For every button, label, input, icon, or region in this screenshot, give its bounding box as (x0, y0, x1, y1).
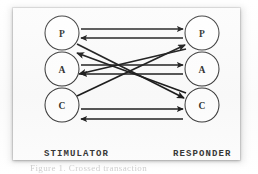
node-right-parent[interactable]: P (185, 16, 219, 50)
ego-state-diagram: P A C P A (13, 8, 240, 160)
node-left-child[interactable]: C (45, 88, 79, 122)
stimulator-node-column: P A C (45, 16, 79, 122)
figure-card: P A C P A (13, 8, 240, 160)
node-right-child-label: C (198, 101, 205, 111)
node-left-adult-label: A (58, 65, 65, 75)
diagonal-arrow-group (77, 44, 186, 98)
figure-container: P A C P A (0, 0, 258, 174)
figure-caption-text: Figure 1. Crossed transaction (14, 163, 240, 173)
node-right-child[interactable]: C (185, 88, 219, 122)
node-left-child-label: C (58, 101, 65, 111)
node-right-adult[interactable]: A (185, 52, 219, 86)
stimulator-column-label: STIMULATOR (44, 149, 109, 159)
node-left-parent[interactable]: P (45, 16, 79, 50)
figure-caption: Figure 1. Crossed transaction (14, 163, 240, 174)
node-right-adult-label: A (198, 65, 205, 75)
responder-node-column: P A C (185, 16, 219, 122)
node-right-parent-label: P (199, 29, 205, 39)
responder-column-label: RESPONDER (173, 149, 232, 159)
node-left-parent-label: P (59, 29, 65, 39)
node-left-adult[interactable]: A (45, 52, 79, 86)
arrow-right-child-to-left-adult (77, 53, 186, 93)
horizontal-arrow-group (81, 29, 183, 119)
